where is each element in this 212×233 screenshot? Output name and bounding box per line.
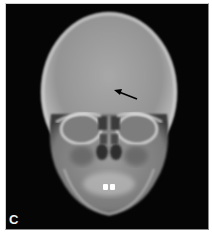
skull-xray-image bbox=[6, 4, 208, 229]
radiograph-panel: C bbox=[5, 3, 209, 230]
panel-label: C bbox=[9, 213, 18, 226]
dental-fillings bbox=[103, 184, 108, 190]
